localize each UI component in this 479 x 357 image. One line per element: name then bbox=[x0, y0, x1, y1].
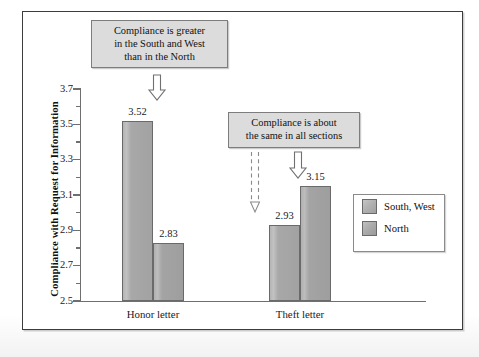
y-axis-tick-label: 3.7 bbox=[43, 84, 73, 95]
y-axis-tick-minor bbox=[76, 283, 81, 284]
annotation-callout-same-all-sections: Compliance is about the same in all sect… bbox=[228, 112, 360, 148]
y-axis-tick-minor bbox=[76, 247, 81, 248]
bar-honor-letter-south-west bbox=[122, 121, 153, 301]
y-axis-tick-minor bbox=[76, 106, 81, 107]
annotation-arrow-solid-down-2 bbox=[288, 152, 312, 180]
y-axis-tick-minor bbox=[76, 141, 81, 142]
y-axis-tick-major bbox=[73, 159, 81, 160]
legend-item-north: North bbox=[354, 217, 444, 239]
figure-page: Compliance with Request for Information … bbox=[0, 0, 479, 357]
legend-item-south-west: South, West bbox=[354, 195, 444, 217]
y-axis-tick-label: 3.5 bbox=[43, 119, 73, 130]
y-axis-tick-label: 2.9 bbox=[43, 225, 73, 236]
y-axis-tick-major bbox=[73, 194, 81, 195]
bar-value-label: 3.52 bbox=[121, 107, 155, 118]
bar-theft-letter-south-west bbox=[269, 225, 300, 301]
legend-swatch-south-west bbox=[362, 199, 377, 214]
bar-honor-letter-north bbox=[153, 243, 184, 301]
y-axis-tick-label: 2.5 bbox=[43, 296, 73, 307]
legend-label-north: North bbox=[384, 223, 409, 234]
callout-line: Compliance is about bbox=[234, 117, 354, 130]
legend-label-south-west: South, West bbox=[384, 201, 435, 212]
annotation-callout-south-west-greater: Compliance is greater in the South and W… bbox=[91, 20, 228, 68]
annotation-arrow-solid-down bbox=[147, 75, 171, 101]
figure-frame: Compliance with Request for Information … bbox=[22, 11, 463, 330]
callout-line: Compliance is greater bbox=[97, 25, 222, 38]
y-axis-tick-label: 3.3 bbox=[43, 154, 73, 165]
callout-line: in the South and West bbox=[97, 38, 222, 51]
bar-value-label: 2.83 bbox=[152, 229, 186, 240]
y-axis-tick-major bbox=[73, 265, 81, 266]
annotation-arrow-dashed-down bbox=[245, 152, 267, 214]
chart-legend: South, West North bbox=[353, 194, 445, 252]
y-axis-tick-label: 2.7 bbox=[43, 260, 73, 271]
y-axis-tick-major bbox=[73, 124, 81, 125]
y-axis-tick-major bbox=[73, 300, 81, 301]
legend-swatch-north bbox=[362, 221, 377, 236]
y-axis-tick-minor bbox=[76, 177, 81, 178]
x-axis-category-label: Theft letter bbox=[255, 308, 345, 320]
x-axis-category-label: Honor letter bbox=[108, 308, 198, 320]
callout-line: than in the North bbox=[97, 51, 222, 64]
y-axis-tick-major bbox=[73, 230, 81, 231]
callout-line: the same in all sections bbox=[234, 130, 354, 143]
bar-theft-letter-north bbox=[300, 186, 331, 301]
chart-plot-area: Compliance with Request for Information … bbox=[23, 12, 464, 331]
y-axis-tick-minor bbox=[76, 212, 81, 213]
y-axis-tick-label: 3.1 bbox=[43, 190, 73, 201]
bar-value-label: 2.93 bbox=[268, 211, 302, 222]
y-axis-tick-major bbox=[73, 88, 81, 89]
